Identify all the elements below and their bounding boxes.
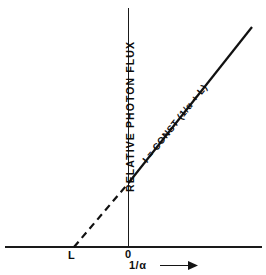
x-axis-title: 1/α bbox=[129, 259, 146, 271]
figure-canvas: RELATIVE PHOTON FLUX I = CONST (1/α + L)… bbox=[0, 0, 266, 275]
y-axis-title: RELATIVE PHOTON FLUX bbox=[124, 41, 136, 192]
x-intercept-label: L bbox=[68, 249, 75, 261]
right-arrow-icon bbox=[160, 261, 198, 270]
data-line-dashed-segment bbox=[74, 183, 129, 247]
